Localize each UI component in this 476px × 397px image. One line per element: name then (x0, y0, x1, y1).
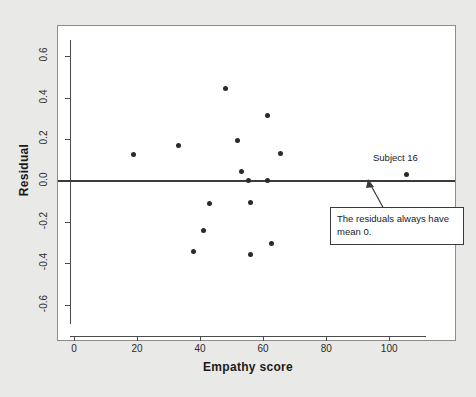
y-axis-line (70, 40, 71, 324)
zero-reference-line (58, 180, 455, 182)
x-tick-label: 40 (180, 343, 220, 354)
x-tick-mark (74, 336, 75, 341)
figure-root: 0.60.40.20.0-0.2-0.4-0.6 020406080100 Re… (0, 0, 476, 397)
y-tick-label: 0.2 (38, 121, 49, 155)
x-tick-label: 100 (369, 343, 409, 354)
scatter-point (223, 86, 228, 91)
scatter-point (248, 200, 253, 205)
y-tick-mark (65, 305, 70, 306)
y-tick-label: 0.6 (38, 38, 49, 72)
y-tick-mark (65, 139, 70, 140)
y-tick-label: 0.4 (38, 79, 49, 113)
scatter-point (201, 228, 206, 233)
subject-16-label: Subject 16 (373, 152, 418, 163)
x-tick-mark (326, 336, 327, 341)
x-tick-mark (200, 336, 201, 341)
scatter-point (176, 143, 181, 148)
x-tick-mark (389, 336, 390, 341)
y-tick-mark (65, 56, 70, 57)
y-tick-label: 0.0 (38, 162, 49, 196)
y-tick-mark (65, 222, 70, 223)
x-tick-mark (137, 336, 138, 341)
y-tick-mark (65, 263, 70, 264)
x-axis-title: Empathy score (70, 360, 426, 374)
y-tick-label: -0.2 (38, 203, 49, 237)
plot-panel (57, 25, 456, 341)
y-tick-label: -0.4 (38, 245, 49, 279)
scatter-point (239, 169, 244, 174)
x-tick-label: 80 (306, 343, 346, 354)
y-tick-label: -0.6 (38, 286, 49, 320)
scatter-point (404, 172, 409, 177)
scatter-point (269, 241, 274, 246)
x-tick-mark (263, 336, 264, 341)
y-axis-title: Residual (17, 140, 31, 200)
scatter-point (248, 252, 253, 257)
x-tick-label: 60 (243, 343, 283, 354)
scatter-point (207, 201, 212, 206)
x-tick-label: 20 (117, 343, 157, 354)
x-axis-line (70, 336, 426, 337)
x-tick-label: 0 (54, 343, 94, 354)
y-tick-mark (65, 98, 70, 99)
mean-zero-callout: The residuals always have mean 0. (330, 207, 464, 245)
